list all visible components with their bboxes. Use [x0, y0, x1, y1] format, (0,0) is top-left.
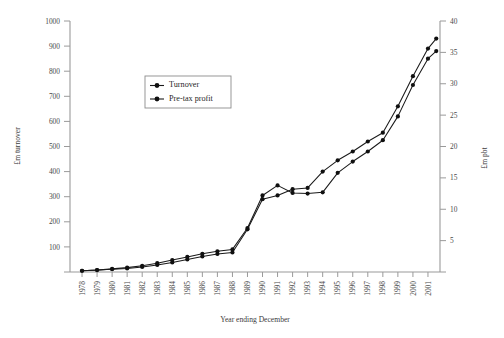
data-point — [306, 191, 310, 195]
y-tick-label-right-7: 40 — [450, 17, 458, 26]
data-point — [321, 170, 325, 174]
x-tick-label-1996: 1996 — [348, 281, 357, 296]
data-point — [155, 261, 159, 265]
data-point — [80, 269, 84, 273]
series-line-0 — [82, 39, 436, 271]
data-point — [200, 252, 204, 256]
x-axis: 1978197919801981198219831984198519861987… — [70, 272, 440, 324]
data-point — [396, 104, 400, 108]
data-point — [434, 36, 438, 40]
x-tick-label-1986: 1986 — [198, 281, 207, 296]
data-point — [426, 57, 430, 61]
data-point — [306, 186, 310, 190]
y-tick-label-left-5: 600 — [49, 117, 60, 126]
x-tick-label-1979: 1979 — [93, 281, 102, 296]
y-axis-right: 510152025303540 £m pbt — [440, 17, 489, 272]
data-point — [351, 149, 355, 153]
data-point — [321, 190, 325, 194]
x-tick-label-1994: 1994 — [318, 281, 327, 296]
data-point — [275, 183, 279, 187]
data-point — [125, 266, 129, 270]
y-tick-label-left-6: 700 — [49, 92, 60, 101]
data-point — [110, 267, 114, 271]
x-axis-title: Year ending December — [220, 315, 290, 324]
line-chart-svg: 1002003004005006007008009001000 £m turno… — [0, 0, 504, 338]
data-point — [185, 255, 189, 259]
x-tick-label-1988: 1988 — [228, 281, 237, 296]
x-tick-label-1983: 1983 — [153, 281, 162, 296]
legend-marker-icon — [155, 83, 160, 88]
x-tick-label-1989: 1989 — [243, 281, 252, 296]
x-tick-label-1978: 1978 — [78, 281, 87, 296]
data-point — [230, 247, 234, 251]
y-tick-label-right-4: 25 — [450, 111, 458, 120]
data-point — [336, 171, 340, 175]
data-point — [140, 264, 144, 268]
data-point — [411, 74, 415, 78]
legend-label: Pre-tax profit — [169, 94, 214, 103]
y-tick-label-right-3: 20 — [450, 142, 458, 151]
data-point — [291, 191, 295, 195]
data-point — [336, 158, 340, 162]
data-point — [95, 268, 99, 272]
x-tick-label-1985: 1985 — [183, 281, 192, 296]
chart-legend[interactable]: TurnoverPre-tax profit — [145, 76, 231, 108]
legend-label: Turnover — [169, 80, 199, 89]
series-line-1 — [82, 51, 436, 271]
x-tick-label-1990: 1990 — [258, 281, 267, 296]
data-point — [381, 138, 385, 142]
y-tick-label-right-1: 10 — [450, 205, 458, 214]
data-point — [215, 249, 219, 253]
y-tick-label-left-0: 100 — [49, 243, 60, 252]
y-tick-label-right-5: 30 — [450, 79, 458, 88]
y-axis-left-title: £m turnover — [13, 127, 22, 165]
x-tick-label-1999: 1999 — [393, 281, 402, 296]
data-point — [170, 258, 174, 262]
y-tick-label-left-4: 500 — [49, 142, 60, 151]
x-tick-label-1995: 1995 — [333, 281, 342, 296]
x-tick-label-1997: 1997 — [363, 281, 372, 296]
y-tick-label-right-0: 5 — [450, 236, 454, 245]
data-point — [411, 83, 415, 87]
y-tick-label-right-2: 15 — [450, 173, 458, 182]
y-axis-left: 1002003004005006007008009001000 £m turno… — [13, 17, 70, 272]
y-axis-right-title: £m pbt — [480, 146, 489, 168]
data-point — [260, 193, 264, 197]
x-tick-label-2001: 2001 — [424, 281, 433, 296]
x-tick-label-2000: 2000 — [409, 281, 418, 296]
x-tick-label-1998: 1998 — [378, 281, 387, 296]
data-point — [426, 47, 430, 51]
y-tick-label-left-3: 400 — [49, 167, 60, 176]
y-tick-label-right-6: 35 — [450, 48, 458, 57]
legend-marker-icon — [155, 97, 160, 102]
data-point — [351, 159, 355, 163]
data-point — [381, 131, 385, 135]
x-tick-label-1991: 1991 — [273, 281, 282, 296]
x-tick-label-1992: 1992 — [288, 281, 297, 296]
y-tick-label-left-8: 900 — [49, 42, 60, 51]
x-tick-label-1981: 1981 — [123, 281, 132, 296]
data-point — [434, 49, 438, 53]
data-point — [245, 226, 249, 230]
data-point — [291, 187, 295, 191]
data-point — [366, 139, 370, 143]
x-tick-label-1980: 1980 — [108, 281, 117, 296]
y-tick-label-left-1: 200 — [49, 217, 60, 226]
data-point — [366, 149, 370, 153]
y-tick-label-left-9: 1000 — [45, 17, 60, 26]
series-pre-tax-profit — [80, 49, 438, 273]
chart-container: 1002003004005006007008009001000 £m turno… — [0, 0, 504, 338]
x-tick-label-1987: 1987 — [213, 281, 222, 296]
series-layer — [80, 36, 438, 272]
y-tick-label-left-2: 300 — [49, 192, 60, 201]
data-point — [396, 114, 400, 118]
series-turnover — [80, 36, 438, 272]
x-tick-label-1982: 1982 — [138, 281, 147, 296]
x-tick-label-1984: 1984 — [168, 281, 177, 296]
x-tick-label-1993: 1993 — [303, 281, 312, 296]
y-tick-label-left-7: 800 — [49, 67, 60, 76]
data-point — [275, 193, 279, 197]
